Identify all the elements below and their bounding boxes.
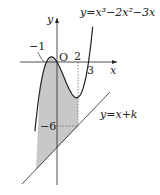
tick-label-three: 3 [87, 64, 94, 77]
curve-label: y=x³−2x²−3x [79, 6, 156, 19]
origin-label: O [59, 51, 68, 64]
line-label: y=x+k [99, 108, 138, 121]
tick-label-neg-one: −1 [29, 40, 45, 53]
graph-diagram: y=x³−2x²−3x y=x+k x y O −1 2 3 −6 [0, 0, 160, 195]
x-axis-label: x [110, 64, 117, 77]
tick-label-two: 2 [74, 50, 81, 63]
y-axis-arrow-icon [55, 18, 59, 23]
label-leader-neg-one [38, 52, 44, 62]
tick-label-neg-six: −6 [40, 120, 56, 133]
y-axis-label: y [46, 13, 54, 26]
